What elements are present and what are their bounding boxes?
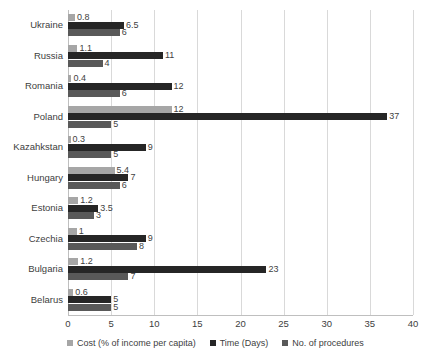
legend-swatch-icon [67, 340, 73, 346]
bar-kazahkstan-cost [68, 136, 71, 143]
bar-value-label: 9 [148, 143, 153, 152]
bar-value-label: 6 [122, 89, 127, 98]
bar-group: 1.23.53 [68, 193, 413, 224]
category-label-romania: Romania [25, 81, 63, 91]
bar-value-label: 8 [139, 242, 144, 251]
bar-kazahkstan-time [68, 144, 146, 151]
bar-group: 198 [68, 224, 413, 255]
bar-value-label: 37 [389, 112, 399, 121]
bar-group: 0.86.56 [68, 10, 413, 41]
legend-item-2[interactable]: No. of procedures [282, 338, 364, 348]
category-label-russia: Russia [34, 51, 63, 61]
bar-group: 1.1114 [68, 41, 413, 72]
bar-group: 0.395 [68, 132, 413, 163]
category-label-poland: Poland [33, 112, 63, 122]
bar-hungary-procedures [68, 182, 120, 189]
category-label-estonia: Estonia [31, 203, 63, 213]
bar-russia-procedures [68, 60, 103, 67]
gridline-40 [413, 10, 414, 315]
bar-estonia-procedures [68, 212, 94, 219]
bar-hungary-cost [68, 167, 115, 174]
x-tick-label-15: 15 [192, 318, 203, 329]
bar-ukraine-time [68, 22, 124, 29]
bar-value-label: 12 [174, 82, 184, 91]
bar-value-label: 3 [96, 211, 101, 220]
bar-belarus-procedures [68, 304, 111, 311]
y-axis-category-labels: UkraineRussiaRomaniaPolandKazahkstanHung… [0, 10, 63, 315]
bar-russia-cost [68, 45, 77, 52]
legend-label: No. of procedures [292, 338, 364, 348]
bar-romania-cost [68, 75, 71, 82]
category-label-hungary: Hungary [27, 173, 63, 183]
bar-value-label: 5 [113, 150, 118, 159]
bar-romania-time [68, 83, 172, 90]
bar-romania-procedures [68, 90, 120, 97]
bar-value-label: 6 [122, 28, 127, 37]
x-tick-label-0: 0 [65, 318, 70, 329]
bar-estonia-cost [68, 197, 78, 204]
x-tick-label-40: 40 [408, 318, 419, 329]
bar-czechia-time [68, 235, 146, 242]
legend-item-1[interactable]: Time (Days) [210, 338, 269, 348]
bar-value-label: 23 [268, 265, 278, 274]
x-tick-label-10: 10 [149, 318, 160, 329]
legend-label: Time (Days) [220, 338, 269, 348]
legend-item-0[interactable]: Cost (% of income per capita) [67, 338, 196, 348]
bar-value-label: 6 [122, 181, 127, 190]
bar-poland-procedures [68, 121, 111, 128]
bar-czechia-cost [68, 228, 77, 235]
bar-value-label: 7 [130, 272, 135, 281]
bar-russia-time [68, 52, 163, 59]
bar-bulgaria-time [68, 266, 266, 273]
bar-value-label: 7 [130, 173, 135, 182]
bar-ukraine-cost [68, 14, 75, 21]
x-tick-label-30: 30 [321, 318, 332, 329]
bar-group: 0.4126 [68, 71, 413, 102]
x-axis-tick-labels: 0510152025303540 [68, 318, 413, 332]
x-tick-label-20: 20 [235, 318, 246, 329]
bar-belarus-cost [68, 289, 73, 296]
legend-label: Cost (% of income per capita) [77, 338, 196, 348]
x-axis-line [68, 315, 413, 316]
bar-poland-cost [68, 106, 172, 113]
bar-kazahkstan-procedures [68, 151, 111, 158]
category-label-ukraine: Ukraine [30, 20, 63, 30]
chart-legend: Cost (% of income per capita)Time (Days)… [0, 338, 431, 348]
bar-value-label: 3.5 [100, 204, 113, 213]
bar-group: 0.655 [68, 285, 413, 316]
bar-group: 5.476 [68, 163, 413, 194]
bar-belarus-time [68, 296, 111, 303]
category-label-kazahkstan: Kazahkstan [13, 142, 63, 152]
bar-value-label: 5 [113, 120, 118, 129]
bar-ukraine-procedures [68, 29, 120, 36]
bar-value-label: 9 [148, 234, 153, 243]
bar-chart: UkraineRussiaRomaniaPolandKazahkstanHung… [0, 0, 431, 362]
bar-czechia-procedures [68, 243, 137, 250]
legend-swatch-icon [282, 340, 288, 346]
bar-value-label: 4 [105, 59, 110, 68]
x-tick-label-25: 25 [278, 318, 289, 329]
bar-group: 12375 [68, 102, 413, 133]
bar-hungary-time [68, 174, 128, 181]
bar-bulgaria-procedures [68, 273, 128, 280]
bar-estonia-time [68, 205, 98, 212]
legend-swatch-icon [210, 340, 216, 346]
x-tick-label-5: 5 [108, 318, 113, 329]
category-label-bulgaria: Bulgaria [28, 264, 63, 274]
bar-value-label: 5 [113, 303, 118, 312]
plot-area: 0.86.561.11140.4126123750.3955.4761.23.5… [68, 10, 413, 315]
bar-value-label: 6.5 [126, 21, 139, 30]
category-label-czechia: Czechia [29, 234, 63, 244]
bar-value-label: 11 [165, 51, 174, 60]
bar-group: 1.2237 [68, 254, 413, 285]
category-label-belarus: Belarus [31, 295, 63, 305]
bar-bulgaria-cost [68, 258, 78, 265]
x-tick-label-35: 35 [365, 318, 376, 329]
